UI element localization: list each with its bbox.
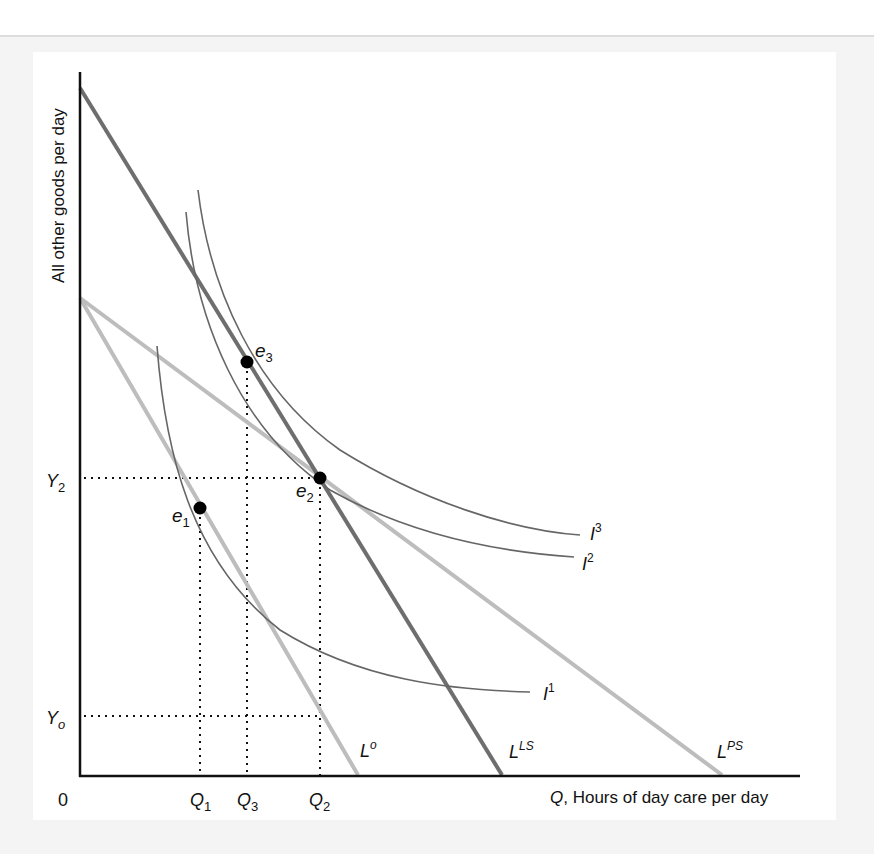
guide-lines — [84, 364, 320, 775]
label-i1: I1 — [543, 681, 555, 704]
budget-line-lls — [80, 88, 502, 775]
tick-y2: Y2 — [46, 471, 65, 495]
x-axis-label: Q, Hours of day care per day — [550, 788, 769, 807]
y-axis-label: All other goods per day — [49, 108, 68, 283]
label-lps: LPS — [717, 739, 743, 762]
point-e1 — [194, 502, 207, 515]
indifference-curve-i3 — [198, 190, 580, 535]
budget-line-lps — [80, 298, 722, 775]
label-lo: Lo — [360, 738, 377, 761]
tick-q3: Q3 — [237, 790, 258, 814]
tick-yo: Yo — [46, 708, 65, 732]
point-e3 — [241, 356, 254, 369]
consumer-choice-diagram: All other goods per day e1 e3 e2 I3 I2 I… — [0, 0, 874, 854]
label-e3: e3 — [255, 340, 273, 365]
label-i3: I3 — [590, 521, 602, 544]
tick-q1: Q1 — [190, 790, 211, 814]
point-e2 — [314, 472, 327, 485]
indifference-curve-i2 — [186, 212, 574, 557]
label-i2: I2 — [582, 551, 594, 574]
origin-label: 0 — [58, 790, 68, 810]
tick-q2: Q2 — [309, 790, 330, 814]
label-lls: LLS — [509, 739, 534, 762]
label-e1: e1 — [172, 505, 190, 530]
budget-line-lo — [80, 298, 358, 775]
label-e2: e2 — [296, 480, 314, 505]
